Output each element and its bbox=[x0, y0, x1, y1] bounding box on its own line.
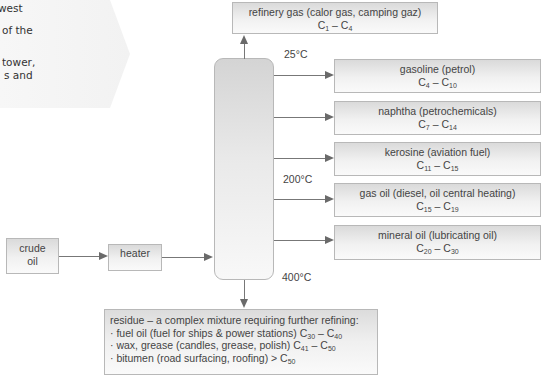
side-note-line: tower, bbox=[2, 56, 35, 68]
fraction-gas-oil: gas oil (diesel, oil central heating) C1… bbox=[334, 183, 541, 217]
fraction-name: naphtha (petrochemicals) bbox=[335, 105, 540, 118]
residue-item: · wax, grease (candles, grease, polish) … bbox=[110, 339, 377, 352]
connector-line bbox=[274, 75, 326, 76]
fractionating-column bbox=[214, 58, 274, 280]
fraction-name: refinery gas (calor gas, camping gaz) bbox=[233, 6, 437, 19]
connector-line bbox=[274, 199, 326, 200]
carbon-range: C1 – C4 bbox=[233, 19, 437, 32]
arrow-right-icon bbox=[99, 252, 108, 260]
fraction-refinery-gas: refinery gas (calor gas, camping gaz) C1… bbox=[232, 2, 438, 34]
side-note-panel: west of the tower, s and bbox=[0, 0, 130, 108]
fraction-name: gasoline (petrol) bbox=[335, 63, 540, 76]
connector-line bbox=[244, 42, 245, 59]
heater-label: heater bbox=[109, 247, 161, 260]
temperature-top: 25°C bbox=[284, 48, 307, 60]
crude-oil-label: crude bbox=[7, 242, 58, 255]
side-note-line: of the bbox=[2, 24, 33, 36]
crude-oil-label: oil bbox=[7, 255, 58, 268]
fraction-kerosine: kerosine (aviation fuel) C11 – C15 bbox=[334, 142, 541, 176]
residue-box: residue – a complex mixture requiring fu… bbox=[104, 309, 378, 375]
connector-line bbox=[274, 240, 326, 241]
connector-line bbox=[244, 280, 245, 300]
residue-title: residue – a complex mixture requiring fu… bbox=[110, 314, 377, 327]
fraction-name: mineral oil (lubricating oil) bbox=[335, 229, 540, 242]
residue-item: · bitumen (road surfacing, roofing) > C5… bbox=[110, 352, 377, 365]
connector-line bbox=[162, 257, 204, 258]
carbon-range: C15 – C19 bbox=[335, 200, 540, 213]
crude-oil-box: crude oil bbox=[6, 238, 59, 274]
fraction-name: gas oil (diesel, oil central heating) bbox=[335, 187, 540, 200]
arrow-down-icon bbox=[240, 299, 248, 308]
side-note-line: s and bbox=[4, 69, 33, 81]
connector-line bbox=[59, 256, 100, 257]
arrow-right-icon bbox=[325, 195, 334, 203]
carbon-range: C11 – C15 bbox=[335, 159, 540, 172]
heater-box: heater bbox=[108, 244, 162, 271]
fraction-name: kerosine (aviation fuel) bbox=[335, 146, 540, 159]
carbon-range: C20 – C30 bbox=[335, 242, 540, 255]
connector-line bbox=[274, 117, 326, 118]
carbon-range: C4 – C10 bbox=[335, 76, 540, 89]
side-note-line: west bbox=[0, 2, 23, 14]
residue-item: · fuel oil (fuel for ships & power stati… bbox=[110, 327, 377, 340]
arrow-right-icon bbox=[325, 113, 334, 121]
carbon-range: C7 – C14 bbox=[335, 118, 540, 131]
arrow-right-icon bbox=[325, 71, 334, 79]
temperature-bottom: 400°C bbox=[282, 271, 311, 283]
arrow-up-icon bbox=[240, 35, 248, 44]
connector-line bbox=[274, 158, 326, 159]
arrow-right-icon bbox=[325, 236, 334, 244]
temperature-middle: 200°C bbox=[283, 173, 312, 185]
fraction-mineral-oil: mineral oil (lubricating oil) C20 – C30 bbox=[334, 225, 541, 260]
fraction-gasoline: gasoline (petrol) C4 – C10 bbox=[334, 59, 541, 93]
fraction-naphtha: naphtha (petrochemicals) C7 – C14 bbox=[334, 101, 541, 135]
arrow-right-icon bbox=[325, 154, 334, 162]
arrow-right-icon bbox=[204, 253, 213, 261]
